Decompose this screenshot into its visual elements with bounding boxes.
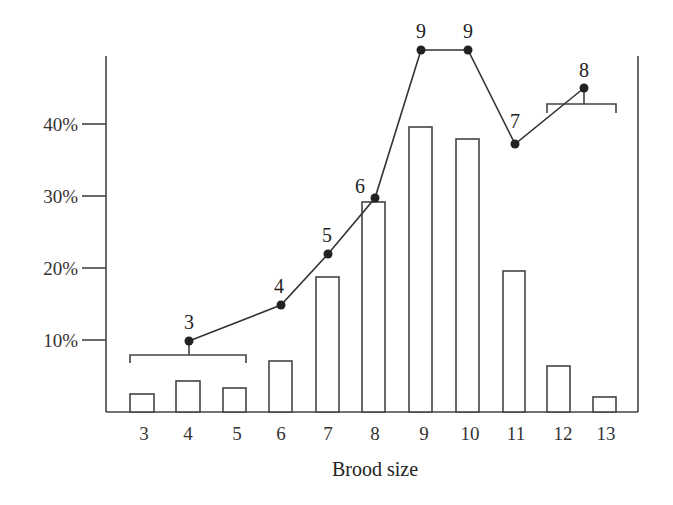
x-tick-label: 6 <box>276 423 286 444</box>
y-tick-label: 40% <box>43 114 78 135</box>
point-label: 3 <box>184 311 194 333</box>
x-tick-label: 12 <box>554 423 573 444</box>
point-label: 4 <box>274 275 284 297</box>
point-marker <box>464 46 473 55</box>
point-label: 6 <box>355 175 365 197</box>
y-tick-label: 20% <box>43 258 78 279</box>
point-marker <box>277 301 286 310</box>
bar-6 <box>269 361 292 412</box>
y-tick-labels: 40% 30% 20% 10% <box>43 114 78 351</box>
brood-size-chart: 40% 30% 20% 10% 3 <box>0 0 673 505</box>
x-axis-title: Brood size <box>332 458 418 480</box>
point-marker <box>417 46 426 55</box>
x-tick-label: 13 <box>597 423 616 444</box>
x-tick-label: 10 <box>461 423 480 444</box>
bars <box>130 127 616 412</box>
axes <box>82 56 638 412</box>
bar-7 <box>316 277 339 412</box>
point-marker <box>511 140 520 149</box>
bar-3 <box>130 394 154 412</box>
x-tick-label: 3 <box>139 423 149 444</box>
point-marker <box>371 194 380 203</box>
bar-5 <box>223 388 246 412</box>
y-tick-label: 30% <box>43 186 78 207</box>
x-tick-label: 9 <box>419 423 429 444</box>
x-tick-label: 4 <box>183 423 193 444</box>
survival-line <box>185 46 589 346</box>
x-tick-labels: 3 4 5 6 7 8 9 10 11 12 13 <box>139 423 615 444</box>
point-label: 9 <box>463 20 473 42</box>
y-tick-label: 10% <box>43 330 78 351</box>
bar-9 <box>409 127 432 412</box>
point-label: 9 <box>416 20 426 42</box>
bar-11 <box>503 271 525 412</box>
x-tick-label: 7 <box>323 423 333 444</box>
bar-10 <box>456 139 479 412</box>
point-label: 8 <box>579 59 589 81</box>
x-tick-label: 11 <box>507 423 525 444</box>
bar-8 <box>362 202 385 412</box>
point-labels: 3 4 5 6 9 9 7 8 <box>184 20 589 333</box>
bar-12 <box>547 366 570 412</box>
point-marker <box>185 337 194 346</box>
point-label: 5 <box>322 224 332 246</box>
bar-4 <box>176 381 200 412</box>
point-marker <box>580 84 589 93</box>
point-label: 7 <box>510 110 520 132</box>
x-tick-label: 8 <box>370 423 380 444</box>
point-marker <box>324 250 333 259</box>
x-tick-label: 5 <box>232 423 242 444</box>
bar-13 <box>593 397 616 412</box>
